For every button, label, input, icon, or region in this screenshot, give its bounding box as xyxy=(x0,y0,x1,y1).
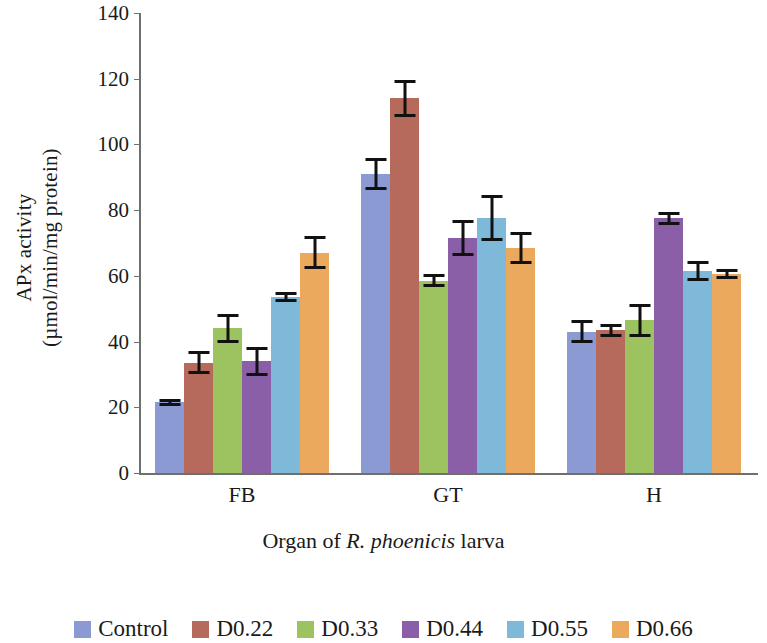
bar-slot xyxy=(567,13,596,473)
bar-slot xyxy=(419,13,448,473)
x-axis-line xyxy=(139,473,758,475)
error-bar xyxy=(188,351,209,374)
bar-slot xyxy=(654,13,683,473)
x-axis-title-post: larva xyxy=(455,528,504,553)
bar-d0-44-fb[interactable] xyxy=(242,361,271,473)
bar-control-fb[interactable] xyxy=(155,402,184,473)
bar-slot xyxy=(448,13,477,473)
legend-item-d0-33[interactable]: D0.33 xyxy=(297,616,378,642)
error-bar xyxy=(423,274,444,287)
legend-swatch-icon xyxy=(612,621,629,638)
chart-legend: ControlD0.22D0.33D0.44D0.55D0.66 xyxy=(0,616,767,642)
chart-figure: APx activity (µmol/min/mg protein) 02040… xyxy=(0,0,767,643)
error-bar xyxy=(452,220,473,256)
y-tick-label: 60 xyxy=(73,263,129,288)
legend-swatch-icon xyxy=(192,621,209,638)
bar-groups xyxy=(139,13,757,473)
x-axis-title: Organ of R. phoenicis larva xyxy=(0,528,767,554)
bar-d0-22-h[interactable] xyxy=(596,330,625,473)
x-axis-title-pre: Organ of xyxy=(262,528,346,553)
error-bar xyxy=(246,347,267,377)
bar-d0-44-h[interactable] xyxy=(654,218,683,473)
x-category-label: H xyxy=(551,482,757,512)
legend-item-control[interactable]: Control xyxy=(74,616,168,642)
bar-slot xyxy=(625,13,654,473)
y-tick-mark xyxy=(134,276,140,277)
bar-slot xyxy=(712,13,741,473)
bar-d0-55-h[interactable] xyxy=(683,271,712,473)
bar-slot xyxy=(213,13,242,473)
x-category-label: GT xyxy=(345,482,551,512)
bar-slot xyxy=(361,13,390,473)
bar-slot xyxy=(184,13,213,473)
error-bar xyxy=(571,320,592,343)
error-bar xyxy=(217,314,238,344)
bar-d0-22-gt[interactable] xyxy=(390,98,419,473)
error-bar xyxy=(481,195,502,241)
bar-slot xyxy=(271,13,300,473)
bar-d0-44-gt[interactable] xyxy=(448,238,477,473)
y-tick-label: 40 xyxy=(73,329,129,354)
bar-control-h[interactable] xyxy=(567,332,596,473)
legend-label: Control xyxy=(98,616,168,642)
legend-label: D0.66 xyxy=(636,616,693,642)
error-bar xyxy=(159,399,180,406)
bar-group xyxy=(345,13,551,473)
bar-d0-55-fb[interactable] xyxy=(271,297,300,473)
bar-slot xyxy=(477,13,506,473)
legend-label: D0.33 xyxy=(321,616,378,642)
error-bar xyxy=(716,269,737,279)
error-bar xyxy=(629,304,650,337)
bar-slot xyxy=(155,13,184,473)
bar-d0-55-gt[interactable] xyxy=(477,218,506,473)
bar-d0-22-fb[interactable] xyxy=(184,363,213,473)
plot-area: 020406080100120140 xyxy=(139,13,757,473)
y-tick-mark xyxy=(134,407,140,408)
bar-slot xyxy=(300,13,329,473)
y-axis-title-line2: (µmol/min/mg protein) xyxy=(38,58,64,438)
error-bar xyxy=(365,158,386,191)
x-category-label: FB xyxy=(139,482,345,512)
bar-d0-33-gt[interactable] xyxy=(419,281,448,473)
error-bar xyxy=(600,324,621,337)
bar-slot xyxy=(242,13,271,473)
y-tick-mark xyxy=(134,144,140,145)
x-axis-category-labels: FBGTH xyxy=(139,482,757,512)
bar-d0-66-h[interactable] xyxy=(712,274,741,473)
legend-label: D0.55 xyxy=(531,616,588,642)
y-tick-label: 80 xyxy=(73,198,129,223)
x-axis-title-species: R. phoenicis xyxy=(346,528,455,553)
error-bar xyxy=(275,292,296,302)
y-tick-mark xyxy=(134,79,140,80)
legend-item-d0-22[interactable]: D0.22 xyxy=(192,616,273,642)
y-tick-label: 20 xyxy=(73,395,129,420)
y-axis-tick-labels: 020406080100120140 xyxy=(67,13,129,474)
legend-item-d0-55[interactable]: D0.55 xyxy=(507,616,588,642)
error-bar xyxy=(658,212,679,225)
y-tick-label: 120 xyxy=(73,66,129,91)
legend-swatch-icon xyxy=(402,621,419,638)
legend-swatch-icon xyxy=(507,621,524,638)
error-bar xyxy=(510,232,531,265)
bar-slot xyxy=(596,13,625,473)
legend-swatch-icon xyxy=(74,621,91,638)
error-bar xyxy=(394,80,415,116)
bar-d0-66-fb[interactable] xyxy=(300,253,329,473)
y-tick-label: 0 xyxy=(73,461,129,486)
legend-item-d0-66[interactable]: D0.66 xyxy=(612,616,693,642)
bar-d0-33-h[interactable] xyxy=(625,320,654,473)
y-tick-label: 140 xyxy=(73,1,129,26)
legend-swatch-icon xyxy=(297,621,314,638)
y-tick-mark xyxy=(134,13,140,14)
legend-item-d0-44[interactable]: D0.44 xyxy=(402,616,483,642)
bar-d0-33-fb[interactable] xyxy=(213,328,242,473)
bar-slot xyxy=(390,13,419,473)
y-axis-title-line1: APx activity xyxy=(12,194,36,302)
legend-label: D0.44 xyxy=(426,616,483,642)
bar-d0-66-gt[interactable] xyxy=(506,248,535,473)
error-bar xyxy=(687,261,708,281)
y-tick-mark xyxy=(134,210,140,211)
bar-slot xyxy=(506,13,535,473)
bar-control-gt[interactable] xyxy=(361,174,390,473)
bar-slot xyxy=(683,13,712,473)
